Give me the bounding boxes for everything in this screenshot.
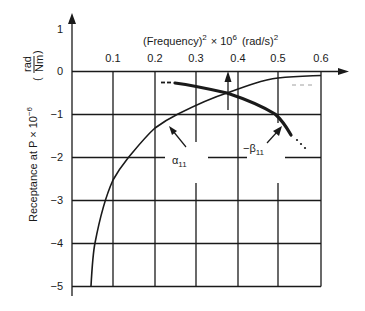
y-axis (68, 13, 76, 296)
svg-text:(: ( (31, 77, 43, 81)
y-tick: 1 (57, 23, 63, 35)
up-arrow-icon (225, 71, 232, 82)
svg-text:): ) (31, 50, 43, 54)
y-tick: 0 (57, 65, 63, 77)
x-tick-labels: 0.1 0.2 0.3 0.4 0.5 0.6 (105, 52, 328, 64)
x-tick: 0.5 (270, 52, 285, 64)
svg-text:Nm: Nm (33, 55, 45, 72)
x-tick: 0.1 (105, 52, 120, 64)
x-tick: 0.4 (230, 52, 245, 64)
intersection-arrow (225, 71, 232, 110)
x-tick: 0.3 (188, 52, 203, 64)
alpha11-label: α11 (172, 154, 187, 169)
y-tick: −2 (50, 151, 63, 163)
beta11-dotted-extension (161, 83, 312, 150)
beta11-label: −β11 (243, 142, 265, 157)
beta11-annotation: −β11 (243, 126, 282, 157)
y-tick-labels: 1 0 −1 −2 −3 −4 −5 (50, 23, 63, 292)
y-axis-title: Receptance at P × 10−6 ( rad Nm ) (21, 50, 45, 222)
y-tick: −4 (50, 237, 63, 249)
alpha11-curve (91, 76, 321, 287)
x-tick: 0.2 (147, 52, 162, 64)
y-tick: −3 (50, 194, 63, 206)
svg-text:Receptance at P × 10−6: Receptance at P × 10−6 (25, 106, 39, 222)
y-tick: −1 (50, 108, 63, 120)
svg-text:rad: rad (21, 56, 33, 72)
receptance-chart: 1 0 −1 −2 −3 −4 −5 0.1 0.2 0.3 0.4 0.5 0… (0, 0, 365, 311)
x-axis-arrow-icon (338, 68, 349, 75)
vertical-gridlines (113, 72, 321, 287)
y-axis-arrow-icon (68, 13, 76, 24)
x-tick: 0.6 (313, 52, 328, 64)
x-axis-title: (Frequency)2× 106(rad/s)2 (143, 33, 279, 47)
alpha11-annotation: α11 (169, 126, 187, 169)
y-tick: −5 (50, 280, 63, 292)
